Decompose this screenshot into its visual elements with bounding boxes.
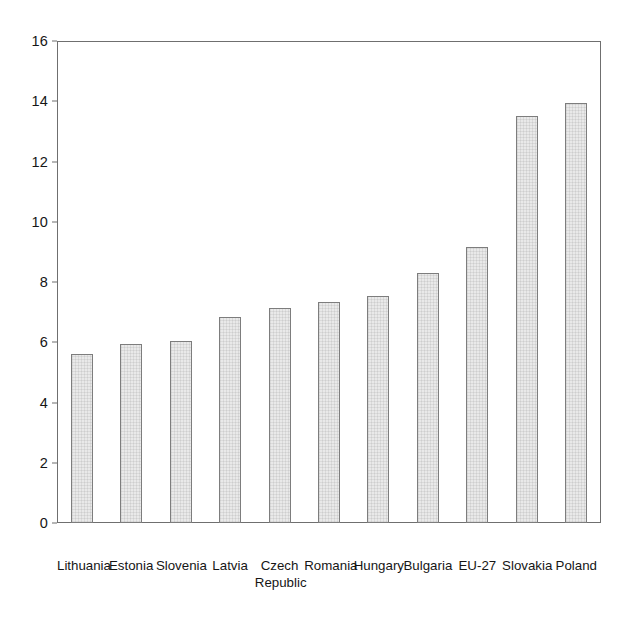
x-axis-tick-label: Romania: [304, 557, 353, 574]
x-axis-tick-label: Slovakia: [502, 557, 551, 574]
x-axis-tick-label: Hungary: [354, 557, 403, 574]
bar-chart: 0246810121416 LithuaniaEstoniaSloveniaLa…: [0, 0, 633, 625]
x-axis-tick-label: Estonia: [106, 557, 155, 574]
x-axis-tick-label: Poland: [552, 557, 601, 574]
x-axis-tick-label: EU-27: [453, 557, 502, 574]
x-axis: LithuaniaEstoniaSloveniaLatviaCzech Repu…: [0, 0, 633, 625]
x-axis-tick-label: Slovenia: [156, 557, 205, 574]
x-axis-tick-label: Bulgaria: [403, 557, 452, 574]
x-axis-tick-label: Latvia: [205, 557, 254, 574]
x-axis-tick-label: Czech Republic: [255, 557, 304, 591]
x-axis-tick-label: Lithuania: [57, 557, 106, 574]
